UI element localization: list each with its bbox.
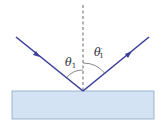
incident-angle-arc <box>67 70 84 78</box>
reflection-diagram: θ1 θ′1 <box>0 0 168 130</box>
reflected-ray <box>83 37 149 91</box>
incident-angle-label: θ1 <box>65 56 76 70</box>
reflected-angle-arc <box>83 63 105 74</box>
reflected-angle-label: θ′1 <box>94 46 104 60</box>
reflected-arrow-icon <box>125 51 132 58</box>
reflecting-surface <box>12 91 154 119</box>
